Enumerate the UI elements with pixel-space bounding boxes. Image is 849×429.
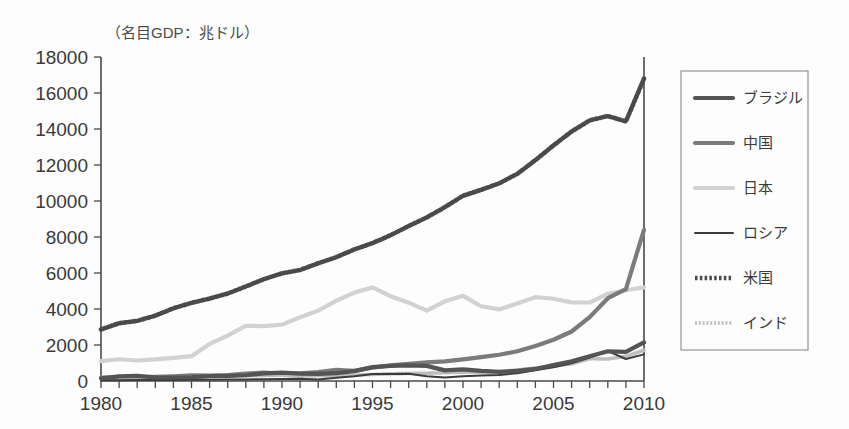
y-axis-label: 10000 [35,191,88,212]
legend-label-中国: 中国 [743,134,773,151]
legend-item-ロシア[interactable]: ロシア [695,224,788,241]
gdp-line-chart: 0200040006000800010000120001400016000180… [0,0,849,429]
chart-title: （名目GDP：兆ドル） [106,24,259,41]
legend-item-米国[interactable]: 米国 [695,269,773,286]
y-axis-label: 18000 [35,47,88,68]
x-axis-label: 2000 [442,393,484,414]
y-axis-label: 14000 [35,119,88,140]
x-axis-label: 2010 [623,393,665,414]
y-axis-label: 16000 [35,83,88,104]
legend-label-米国: 米国 [743,269,773,286]
chart-figure: 0200040006000800010000120001400016000180… [0,0,849,429]
legend-label-インド: インド [743,314,788,331]
legend-item-インド[interactable]: インド [695,314,788,331]
legend-item-日本[interactable]: 日本 [695,179,773,196]
series-line-日本 [101,287,644,361]
y-axis-label: 6000 [46,263,88,284]
chart-legend: ブラジル中国日本ロシア米国インド [681,71,808,350]
x-axis-label: 2005 [532,393,574,414]
legend-item-ブラジル[interactable]: ブラジル [695,89,803,106]
y-axis-label: 0 [77,371,88,392]
legend-item-中国[interactable]: 中国 [695,134,773,151]
y-axis-label: 4000 [46,299,88,320]
y-axis-label: 2000 [46,335,88,356]
series-line-米国 [101,79,644,330]
legend-label-ロシア: ロシア [743,224,788,241]
x-axis-label: 1985 [170,393,212,414]
y-axis-label: 8000 [46,227,88,248]
x-axis-label: 1990 [261,393,303,414]
legend-border [681,71,808,350]
x-axis-label: 1995 [351,393,393,414]
series-group [101,79,644,381]
legend-label-ブラジル: ブラジル [743,89,803,106]
y-axis-label: 12000 [35,155,88,176]
axis-lines [101,57,644,381]
legend-label-日本: 日本 [743,179,773,196]
x-axis-label: 1980 [80,393,122,414]
